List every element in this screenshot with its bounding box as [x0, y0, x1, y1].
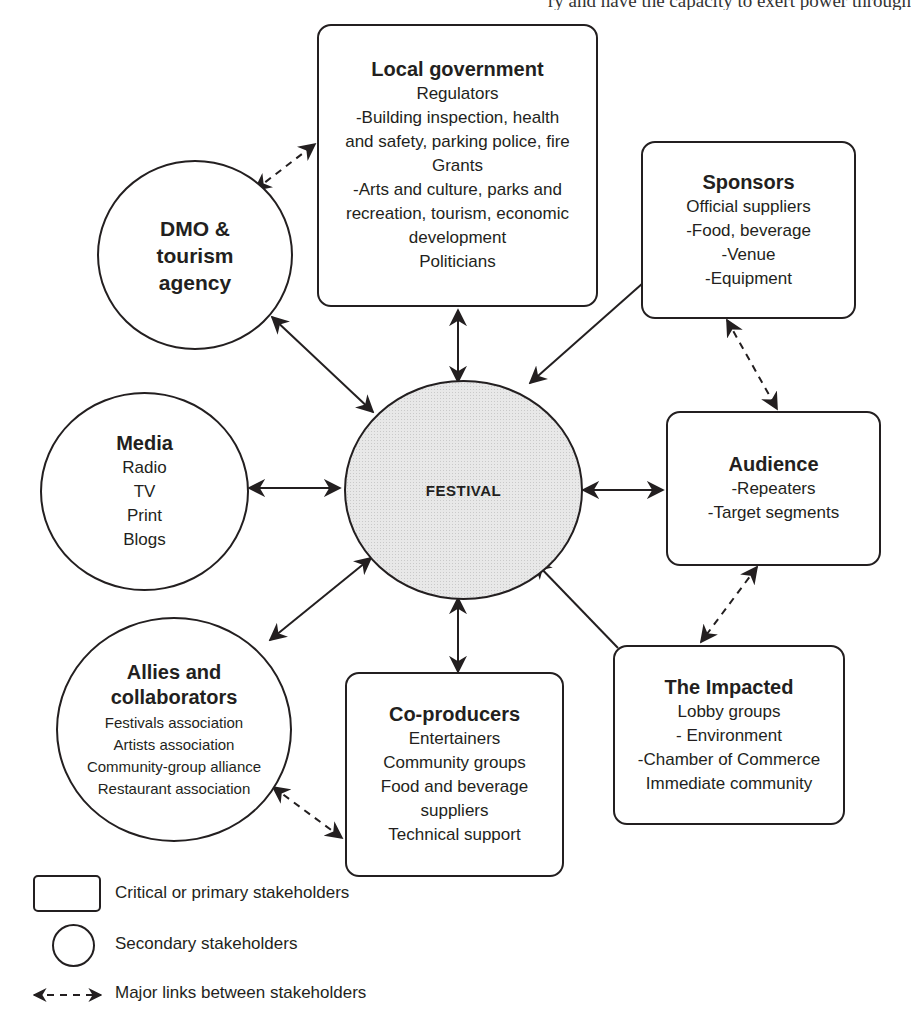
media-line: Radio	[122, 456, 166, 480]
node-sponsors: Sponsors Official suppliers -Food, bever…	[641, 141, 856, 319]
legend-label-primary: Critical or primary stakeholders	[115, 883, 349, 903]
link-dmo-localgov	[255, 144, 315, 190]
local-government-line: recreation, tourism, economic	[346, 202, 569, 226]
co-producers-line: Entertainers	[409, 727, 501, 751]
allies-line: Festivals association	[105, 712, 243, 734]
audience-line: -Target segments	[708, 501, 839, 525]
audience-title: Audience	[728, 452, 818, 477]
link-audience-impacted	[701, 567, 757, 642]
impacted-title: The Impacted	[665, 675, 794, 700]
allies-title-line: Allies and	[127, 660, 221, 685]
legend-rounded-rectangle-icon	[33, 875, 101, 912]
co-producers-line: suppliers	[420, 799, 488, 823]
local-government-line: -Arts and culture, parks and	[353, 178, 562, 202]
link-allies-coproducers	[273, 787, 342, 838]
sponsors-line: -Equipment	[705, 267, 792, 291]
link-allies-festival	[270, 558, 371, 640]
co-producers-line: Technical support	[388, 823, 520, 847]
media-line: TV	[134, 480, 156, 504]
link-dmo-festival	[272, 317, 373, 412]
impacted-line: -Chamber of Commerce	[638, 748, 820, 772]
allies-title-line: collaborators	[111, 685, 238, 710]
festival-label: FESTIVAL	[426, 482, 501, 499]
local-government-title: Local government	[371, 57, 543, 82]
allies-line: Community-group alliance	[87, 756, 261, 778]
local-government-line: Politicians	[419, 250, 496, 274]
node-audience: Audience -Repeaters -Target segments	[666, 411, 881, 566]
impacted-line: Lobby groups	[677, 700, 780, 724]
dmo-title-line: agency	[159, 269, 231, 296]
co-producers-title: Co-producers	[389, 702, 520, 727]
allies-line: Artists association	[114, 734, 235, 756]
impacted-line: - Environment	[676, 724, 782, 748]
media-line: Blogs	[123, 528, 166, 552]
legend-dashed-double-arrow-icon	[30, 985, 106, 1005]
media-line: Print	[127, 504, 162, 528]
audience-line: -Repeaters	[731, 477, 815, 501]
impacted-line: Immediate community	[646, 772, 812, 796]
allies-line: Restaurant association	[98, 778, 251, 800]
node-allies-collaborators: Allies and collaborators Festivals assoc…	[56, 617, 292, 842]
local-government-line: -Building inspection, health	[356, 106, 559, 130]
node-festival-center: FESTIVAL	[344, 380, 583, 600]
local-government-line: Regulators	[416, 82, 498, 106]
legend-label-links: Major links between stakeholders	[115, 983, 366, 1003]
legend-circle-icon	[52, 924, 95, 967]
media-title: Media	[116, 431, 173, 456]
dmo-title-line: DMO &	[160, 215, 230, 242]
co-producers-line: Community groups	[383, 751, 526, 775]
node-dmo-tourism-agency: DMO & tourism agency	[97, 160, 293, 350]
local-government-line: development	[409, 226, 506, 250]
dmo-title-line: tourism	[156, 242, 233, 269]
sponsors-line: -Food, beverage	[686, 219, 811, 243]
node-media: Media Radio TV Print Blogs	[40, 392, 249, 591]
sponsors-line: Official suppliers	[686, 195, 810, 219]
local-government-line: Grants	[432, 154, 483, 178]
sponsors-title: Sponsors	[702, 170, 794, 195]
node-local-government: Local government Regulators -Building in…	[317, 24, 598, 307]
node-co-producers: Co-producers Entertainers Community grou…	[345, 672, 564, 877]
local-government-line: and safety, parking police, fire	[345, 130, 570, 154]
link-sponsors-audience	[727, 320, 777, 409]
link-impacted-festival	[535, 562, 618, 648]
sponsors-line: -Venue	[722, 243, 776, 267]
legend-label-secondary: Secondary stakeholders	[115, 934, 297, 954]
co-producers-line: Food and beverage	[381, 775, 528, 799]
node-the-impacted: The Impacted Lobby groups - Environment …	[613, 645, 845, 825]
